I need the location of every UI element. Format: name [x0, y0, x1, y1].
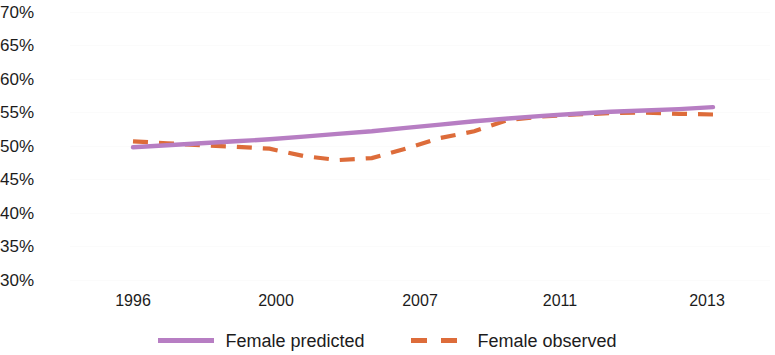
x-tick-label: 2007	[402, 292, 438, 310]
legend-item-female-observed: Female observed	[411, 331, 617, 351]
x-tick-label: 2011	[543, 292, 577, 310]
legend-line-swatch-dashed-icon	[411, 338, 467, 343]
legend-item-female-predicted: Female predicted	[158, 331, 364, 351]
legend-label: Female predicted	[225, 331, 364, 351]
x-tick-label: 2013	[689, 292, 725, 310]
x-tick-label: 1996	[115, 292, 151, 310]
legend-line-swatch-solid-icon	[158, 338, 214, 343]
legend-label: Female observed	[478, 331, 617, 351]
series-line-female-observed	[133, 113, 713, 161]
line-chart: 70% 65% 60% 55% 50% 45% 40% 35% 30% 1996…	[0, 0, 775, 355]
x-axis: 1996 2000 2007 2011 2013	[0, 292, 775, 318]
chart-legend: Female predicted Female observed	[0, 326, 775, 355]
x-tick-label: 2000	[258, 292, 294, 310]
